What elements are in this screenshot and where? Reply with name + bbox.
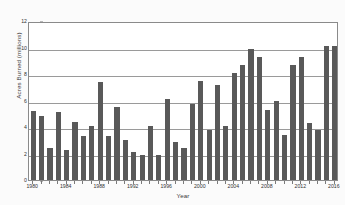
x-axis-tick-mark bbox=[49, 181, 50, 184]
y-axis-tick-label: 12 bbox=[21, 19, 27, 24]
x-axis-tick-mark bbox=[292, 181, 293, 184]
x-axis-tick-mark bbox=[208, 181, 209, 184]
x-axis-tick-mark bbox=[317, 181, 318, 184]
x-axis-tick-label: 1992 bbox=[127, 184, 139, 189]
bar bbox=[232, 73, 237, 180]
bar bbox=[207, 130, 212, 180]
bar bbox=[332, 46, 337, 180]
plot-area bbox=[28, 22, 338, 181]
x-axis-tick-mark bbox=[242, 181, 243, 184]
bar bbox=[114, 107, 119, 180]
bar bbox=[265, 110, 270, 180]
x-axis-tick-label: 2008 bbox=[261, 184, 273, 189]
bar bbox=[148, 126, 153, 180]
y-axis-tick-label: 6 bbox=[24, 99, 27, 104]
y-axis-tick-label: 10 bbox=[21, 46, 27, 51]
bar bbox=[290, 65, 295, 180]
x-axis-tick-mark bbox=[141, 181, 142, 184]
y-axis-tick-label: 8 bbox=[24, 72, 27, 77]
x-axis-tick-mark bbox=[175, 181, 176, 184]
x-axis-tick-mark bbox=[325, 181, 326, 184]
x-axis-tick-mark bbox=[116, 181, 117, 184]
bar bbox=[98, 82, 103, 180]
x-axis-tick-mark bbox=[275, 181, 276, 184]
bar bbox=[307, 123, 312, 180]
x-axis-tick-mark bbox=[57, 181, 58, 184]
bar bbox=[165, 99, 170, 180]
bar bbox=[56, 112, 61, 180]
x-axis-tick-label: 2012 bbox=[295, 184, 307, 189]
x-axis-tick-mark bbox=[149, 181, 150, 184]
bar bbox=[274, 101, 279, 181]
x-axis-tick-mark bbox=[284, 181, 285, 184]
bar bbox=[131, 152, 136, 180]
bar bbox=[140, 155, 145, 180]
bar bbox=[64, 150, 69, 180]
x-axis-tick-mark bbox=[183, 181, 184, 184]
bar bbox=[72, 122, 77, 180]
x-axis-tick-label: 2000 bbox=[194, 184, 206, 189]
bar bbox=[47, 148, 52, 180]
bar bbox=[257, 57, 262, 180]
bar-chart: Acres Burned (millions) 024681012 198019… bbox=[0, 0, 345, 205]
x-axis-tick-mark bbox=[41, 181, 42, 184]
x-axis-tick-label: 2004 bbox=[227, 184, 239, 189]
bar-series bbox=[29, 23, 337, 180]
x-axis-tick-label: 1988 bbox=[93, 184, 105, 189]
bar bbox=[240, 65, 245, 180]
bar bbox=[123, 140, 128, 180]
x-axis-tick-mark bbox=[82, 181, 83, 184]
bar bbox=[156, 155, 161, 180]
y-axis-tick-label: 2 bbox=[24, 152, 27, 157]
bar bbox=[299, 57, 304, 180]
bar bbox=[106, 136, 111, 180]
bar bbox=[31, 111, 36, 180]
x-axis-tick-label: 1996 bbox=[160, 184, 172, 189]
x-axis-tick-mark bbox=[124, 181, 125, 184]
bar bbox=[190, 104, 195, 180]
bar bbox=[39, 116, 44, 180]
x-axis-tick-mark bbox=[158, 181, 159, 184]
x-axis-tick-mark bbox=[191, 181, 192, 184]
x-axis-tick-mark bbox=[309, 181, 310, 184]
bar bbox=[282, 135, 287, 180]
x-axis-tick-label: 1980 bbox=[26, 184, 38, 189]
bar bbox=[89, 126, 94, 180]
x-axis-tick-mark bbox=[74, 181, 75, 184]
y-axis-tick-labels: 024681012 bbox=[13, 22, 27, 181]
x-axis-tick-label: 2016 bbox=[328, 184, 340, 189]
x-axis-tick-mark bbox=[258, 181, 259, 184]
x-axis-tick-label: 1984 bbox=[60, 184, 72, 189]
bar bbox=[248, 49, 253, 180]
bar bbox=[315, 130, 320, 180]
x-axis-tick-mark bbox=[108, 181, 109, 184]
bar bbox=[324, 46, 329, 180]
bar bbox=[223, 126, 228, 180]
x-axis-tick-mark bbox=[217, 181, 218, 184]
x-axis-tick-mark bbox=[225, 181, 226, 184]
x-axis-tick-mark bbox=[250, 181, 251, 184]
bar bbox=[81, 136, 86, 180]
y-axis-tick-label: 4 bbox=[24, 125, 27, 130]
bar bbox=[173, 142, 178, 180]
x-axis-title: Year bbox=[28, 192, 338, 199]
bar bbox=[198, 81, 203, 180]
bar bbox=[181, 148, 186, 180]
x-axis-tick-mark bbox=[91, 181, 92, 184]
bar bbox=[215, 85, 220, 180]
